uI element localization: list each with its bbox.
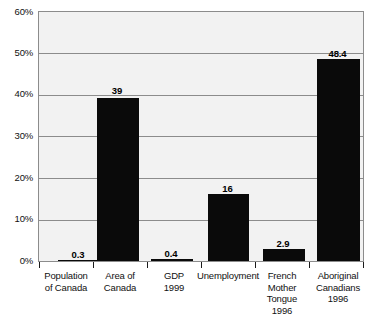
x-axis-label-line: of Canada (36, 282, 96, 294)
x-axis-label-line: Population (36, 270, 96, 282)
bar-area-of-canada (97, 98, 139, 261)
y-axis-tick-label: 50% (3, 48, 33, 58)
x-axis-label-line: 1996 (306, 293, 370, 305)
x-axis-label-french-mother-tongue: French Mother Tongue 1996 (253, 270, 311, 316)
x-axis-tick (93, 262, 94, 268)
x-axis-tick (363, 262, 364, 268)
x-axis-label-line: Area of (90, 270, 150, 282)
x-axis-tick (39, 262, 40, 268)
bar-aboriginal-canadians (317, 59, 360, 261)
y-axis-tick-label: 60% (3, 7, 33, 17)
x-axis-label-line: Canada (90, 282, 150, 294)
bar-value-label: 0.3 (57, 250, 99, 260)
bar-french-mother-tongue (263, 249, 305, 261)
x-axis-tick (201, 262, 202, 268)
x-axis-tick (147, 262, 148, 268)
x-axis-label-line: 1996 (253, 305, 311, 317)
x-axis-label-area-of-canada: Area of Canada (90, 270, 150, 293)
gridline-20 (39, 178, 363, 179)
gridline-10 (39, 220, 363, 221)
x-axis-label-line: Canadians (306, 282, 370, 294)
x-axis-tick (255, 262, 256, 268)
bar-value-label: 39 (96, 86, 138, 96)
bar-value-label: 16 (207, 184, 248, 194)
bar-value-label: 48.4 (316, 49, 359, 59)
bar-chart: 60% 50% 40% 30% 20% 10% 0% 0.3 39 0.4 16… (0, 0, 378, 326)
bar-value-label: 0.4 (150, 249, 192, 259)
gridline-50 (39, 53, 363, 54)
y-axis-tick-label: 30% (3, 131, 33, 141)
bar-value-label: 2.9 (262, 239, 304, 249)
bar-unemployment (208, 194, 249, 261)
x-axis-label-line: Tongue (253, 293, 311, 305)
x-axis-label-aboriginal-canadians: Aboriginal Canadians 1996 (306, 270, 370, 305)
x-axis-label-population-of-canada: Population of Canada (36, 270, 96, 293)
y-axis-tick-label: 20% (3, 173, 33, 183)
x-axis-label-line: Aboriginal (306, 270, 370, 282)
x-axis-label-line: 1999 (144, 282, 204, 294)
gridline-30 (39, 136, 363, 137)
x-axis-label-line: Mother (253, 282, 311, 294)
x-axis-tick (309, 262, 310, 268)
y-axis-tick-label: 10% (3, 214, 33, 224)
bar-gdp-1999 (151, 259, 193, 261)
gridline-40 (39, 95, 363, 96)
y-axis-tick-label: 0% (3, 256, 33, 266)
bar-population-of-canada (58, 260, 100, 261)
x-axis-label-line: French (253, 270, 311, 282)
y-axis-tick-label: 40% (3, 89, 33, 99)
